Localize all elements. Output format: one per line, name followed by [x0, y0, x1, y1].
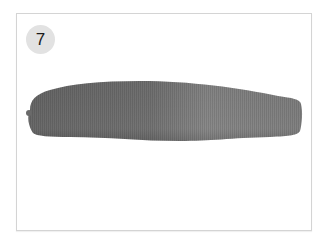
- step-number-badge: 7: [26, 25, 55, 54]
